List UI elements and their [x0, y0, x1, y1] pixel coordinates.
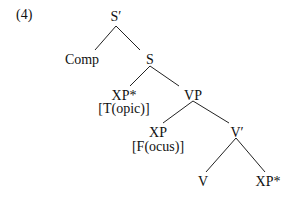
node-comp: Comp [65, 53, 99, 67]
branch-vp-xp-focus [163, 101, 193, 123]
feature-focus: [F(ocus)] [132, 140, 184, 154]
node-vp: VP [184, 89, 202, 103]
feature-topic: [T(opic)] [98, 102, 149, 116]
branch-sbar-comp [95, 26, 116, 50]
branch-vp-vbar [193, 101, 229, 123]
branch-vbar-v [206, 138, 236, 172]
branch-sbar-s [116, 26, 140, 50]
node-xp-object: XP* [256, 175, 281, 189]
branch-vbar-xp-object [236, 138, 265, 172]
tree-branches [0, 0, 301, 201]
branch-s-xp-topic [130, 66, 150, 86]
node-xp-focus: XP [149, 126, 167, 140]
branch-s-vp [150, 66, 179, 86]
node-v-bar: V′ [230, 126, 243, 140]
node-v: V [198, 175, 208, 189]
node-s: S [146, 53, 154, 67]
example-number: (4) [16, 8, 32, 22]
node-s-bar: S′ [111, 10, 122, 24]
